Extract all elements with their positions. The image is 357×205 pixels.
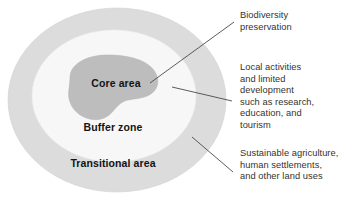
zone-label-transitional: Transitional area	[0, 157, 226, 169]
zone-label-buffer: Buffer zone	[0, 121, 226, 133]
callout-sustainable-agriculture: Sustainable agriculture, human settlemen…	[240, 148, 338, 183]
biosphere-zonation-diagram: Core area Buffer zone Transitional area …	[0, 0, 357, 205]
zone-label-core: Core area	[0, 77, 226, 89]
callout-local-activities: Local activities and limited development…	[240, 62, 314, 132]
callout-biodiversity-preservation: Biodiversity preservation	[240, 10, 292, 33]
